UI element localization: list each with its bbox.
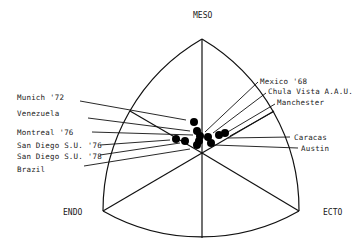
leader-austin [214,145,298,148]
label-manchester: Manchester [277,98,324,107]
axis-endo-up [130,111,202,153]
point-munich [190,118,198,126]
axis-label-meso: MESO [193,11,212,20]
point-austin [207,139,215,147]
label-mexico: Mexico '68 [260,77,307,86]
point-extra-1 [195,137,203,145]
label-munich: Munich '72 [17,93,64,102]
leader-montreal [92,132,193,135]
outer-arc-bottom [103,211,299,237]
label-venezuela: Venezuela [17,109,59,118]
label-sdsu76: San Diego S.U. '76 [17,141,102,150]
leader-munich [80,101,186,120]
data-points [172,118,229,149]
leader-venezuela [88,118,190,131]
leader-caracas [228,137,290,138]
label-sdsu78: San Diego S.U. '78 [17,152,102,161]
somatochart: MESO ENDO ECTO Munich '72 Venezuela Mont… [0,0,362,248]
axis-endo [103,153,202,211]
outer-arc-left [103,39,202,211]
leader-sdsu76 [100,140,170,145]
point-sdsu76 [172,135,180,143]
leader-manchester [226,104,275,133]
point-manchester [221,129,229,137]
label-brazil: Brazil [17,165,45,174]
leader-lines [80,82,298,166]
axis-label-endo: ENDO [63,208,82,217]
axis-label-ecto: ECTO [323,208,342,217]
label-caracas: Caracas [294,133,327,142]
point-sdsu78 [181,137,189,145]
label-chula: Chula Vista A.A.U. [268,87,353,96]
label-austin: Austin [301,144,329,153]
axis-ecto [202,153,299,211]
leader-sdsu78 [100,143,180,155]
label-montreal: Montreal '76 [17,128,74,137]
